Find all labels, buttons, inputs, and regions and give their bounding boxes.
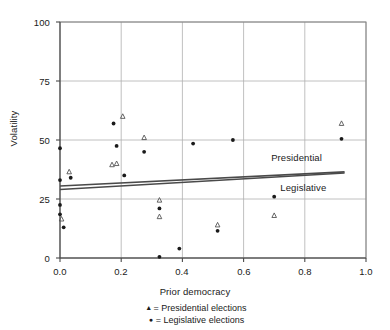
- circle-marker-icon: ●: [146, 314, 156, 326]
- chart-legend: ▲= Presidential elections ●= Legislative…: [0, 302, 390, 326]
- data-point-legislative: [191, 142, 195, 146]
- scatter-plot-figure: Volatility Prior democracy 0 25 50 75 10…: [0, 0, 390, 330]
- legislative-trend-label: Legislative: [280, 182, 326, 193]
- legend-label-presidential: = Presidential elections: [154, 303, 247, 313]
- data-point-legislative: [58, 203, 62, 207]
- data-point-legislative: [158, 255, 162, 259]
- x-tick-label-1.0: 1.0: [351, 266, 381, 277]
- x-tick-label-0.4: 0.4: [167, 266, 197, 277]
- legend-item-presidential: ▲= Presidential elections: [0, 302, 390, 314]
- data-point-legislative: [216, 229, 220, 233]
- data-point-legislative: [58, 178, 62, 182]
- y-tick-label-100: 100: [20, 17, 50, 28]
- x-tick-label-0.8: 0.8: [290, 266, 320, 277]
- data-point-legislative: [122, 174, 126, 178]
- data-point-presidential: [67, 169, 72, 174]
- data-point-presidential: [110, 162, 115, 167]
- triangle-marker-icon: ▲: [144, 302, 154, 314]
- data-point-legislative: [231, 138, 235, 142]
- y-tick-label-50: 50: [20, 135, 50, 146]
- y-tick-label-25: 25: [20, 194, 50, 205]
- x-tick-label-0.0: 0.0: [45, 266, 75, 277]
- y-axis-label: Volatility: [8, 94, 19, 164]
- legend-item-legislative: ●= Legislative elections: [0, 314, 390, 326]
- x-tick-label-0.2: 0.2: [106, 266, 136, 277]
- data-point-legislative: [142, 150, 146, 154]
- data-point-legislative: [115, 144, 119, 148]
- data-point-legislative: [112, 122, 116, 126]
- data-point-presidential: [157, 198, 162, 203]
- y-tick-label-75: 75: [20, 76, 50, 87]
- data-point-legislative: [177, 247, 181, 251]
- data-point-legislative: [62, 225, 66, 229]
- y-tick-label-0: 0: [20, 253, 50, 264]
- data-point-presidential: [157, 214, 162, 219]
- data-point-legislative: [340, 137, 344, 141]
- data-point-legislative: [58, 212, 62, 216]
- x-axis-label: Prior democracy: [0, 286, 390, 297]
- data-point-legislative: [69, 176, 73, 180]
- data-point-legislative: [272, 195, 276, 199]
- legend-label-legislative: = Legislative elections: [156, 315, 244, 325]
- data-point-presidential: [215, 222, 220, 227]
- data-point-presidential: [339, 121, 344, 126]
- plot-canvas: [0, 0, 390, 330]
- data-point-presidential: [142, 135, 147, 140]
- x-tick-label-0.6: 0.6: [229, 266, 259, 277]
- data-point-legislative: [58, 146, 62, 150]
- data-point-presidential: [272, 213, 277, 218]
- data-point-presidential: [114, 161, 119, 166]
- data-point-legislative: [158, 207, 162, 211]
- presidential-trend-label: Presidential: [271, 152, 322, 163]
